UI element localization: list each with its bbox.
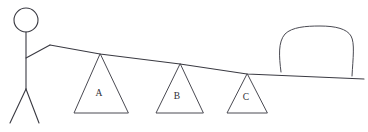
fulcrum-a: A <box>74 54 128 113</box>
fulcrum-b-triangle <box>156 64 203 113</box>
fulcrum-a-triangle <box>74 54 128 113</box>
lever-plank <box>50 45 364 79</box>
fulcrum-b: B <box>156 64 203 113</box>
scene-canvas: A B C <box>0 0 368 132</box>
stick-figure-head-icon <box>14 8 38 32</box>
stick-figure-leg-right <box>26 89 39 123</box>
boulder-icon <box>280 26 354 76</box>
stick-figure <box>10 8 50 123</box>
fulcrum-c: C <box>227 74 267 113</box>
fulcrum-a-label: A <box>96 88 103 98</box>
stick-figure-leg-left <box>10 89 26 123</box>
lever-diagram: A B C <box>0 0 368 132</box>
stick-figure-arm <box>26 45 50 58</box>
fulcrum-b-label: B <box>174 91 180 101</box>
fulcrum-c-label: C <box>243 92 249 102</box>
